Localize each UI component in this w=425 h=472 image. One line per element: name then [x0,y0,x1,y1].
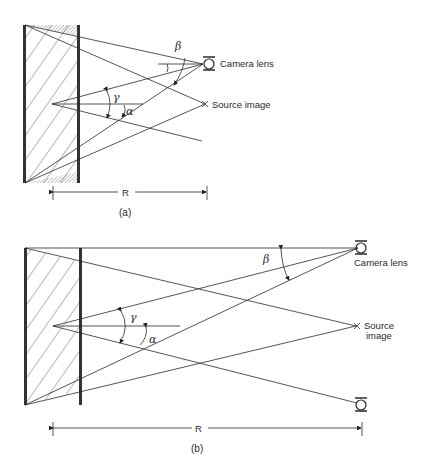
dimension-label-a: R [122,187,129,198]
angle-gamma-arc-a [107,91,110,118]
left-wall-a [23,25,26,183]
panel-a [23,25,215,200]
camera-label-b: Camera lens [354,257,408,268]
angle-gamma-arc-b [120,311,125,343]
camera-lens-icon-bottom-b [355,398,367,411]
dimension-label-b: R [195,423,202,434]
angle-beta-arc-small-a [167,64,168,72]
angle-beta-arc-b [281,249,289,280]
left-wall-b [24,248,27,405]
caption-a: (a) [119,207,131,218]
alpha-label-b: α [149,333,157,346]
gamma-label-b: γ [130,311,137,324]
angle-alpha-arc-a [122,105,125,117]
caption-b: (b) [191,443,203,454]
beta-label-b: β [262,253,269,266]
retroreflector-geometry-figure: Camera lens Source image β γ α R (a) [0,0,425,472]
figure-canvas: Camera lens Source image β γ α R (a) [0,0,425,472]
camera-lens-icon-a [203,57,215,70]
panel-b [24,241,367,436]
alpha-label-a: α [126,105,134,118]
source-label-a: Source image [212,99,271,110]
angle-alpha-arc-b [140,327,146,345]
dimension-r-b [53,422,362,436]
beta-label-a: β [174,40,181,53]
gamma-label-a: γ [113,91,120,104]
right-wall-b [79,248,82,405]
camera-lens-icon-top-b [355,241,367,254]
screen-block-b [24,248,82,405]
camera-label-a: Camera lens [220,58,274,69]
source-label-b-line2: image [366,330,392,341]
dimension-r-a [53,186,207,200]
source-image-marker-a [202,101,208,107]
